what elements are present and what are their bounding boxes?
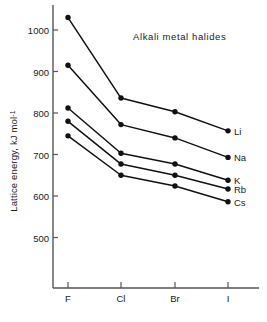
series-labels: LiNaKRbCs	[0, 0, 267, 322]
series-label-na: Na	[234, 152, 246, 163]
series-label-cs: Cs	[234, 196, 246, 207]
series-label-rb: Rb	[234, 183, 246, 194]
chart-figure: Lattice energy, kJ mol-1 500600700800900…	[0, 0, 267, 322]
series-label-li: Li	[234, 125, 241, 136]
